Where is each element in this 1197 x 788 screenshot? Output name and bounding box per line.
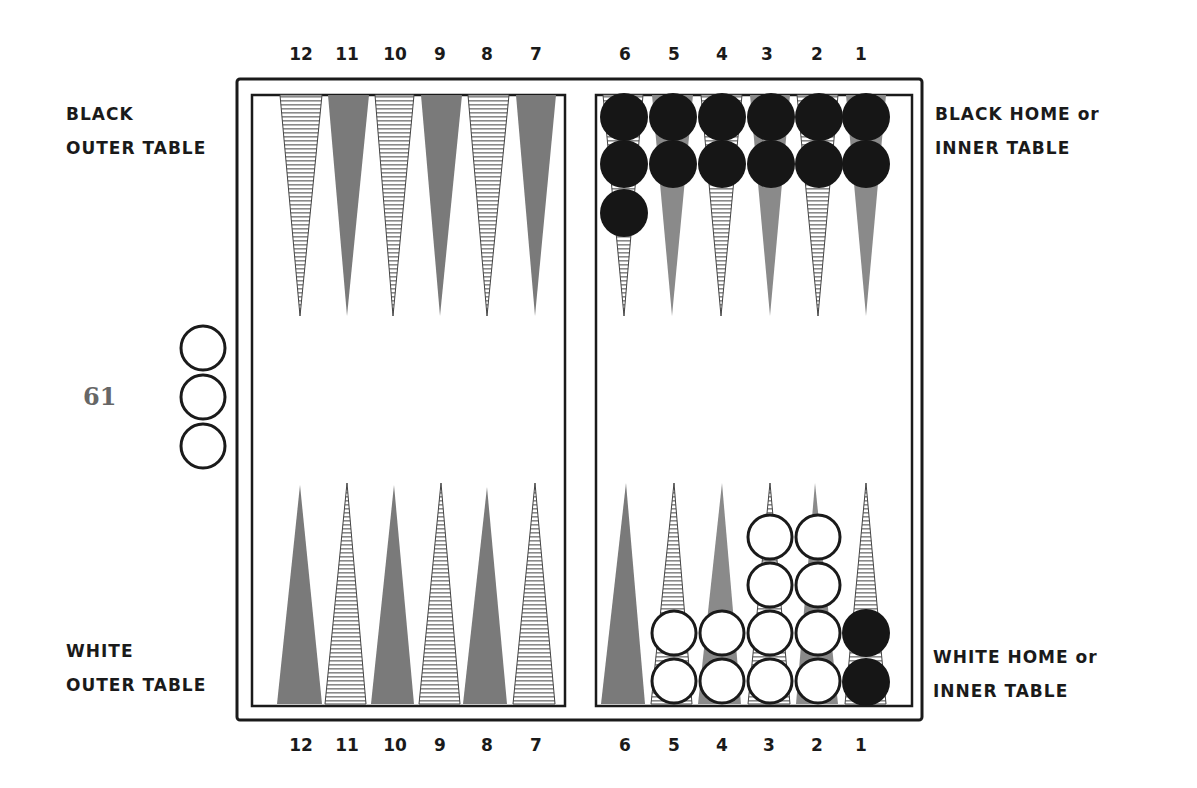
black-checkers-top (600, 93, 890, 237)
bottom-points-left (277, 483, 555, 704)
backgammon-board (0, 0, 1197, 788)
white-checkers-bar (181, 326, 225, 468)
top-points-left (280, 95, 556, 316)
bottom-points-right (601, 483, 886, 704)
